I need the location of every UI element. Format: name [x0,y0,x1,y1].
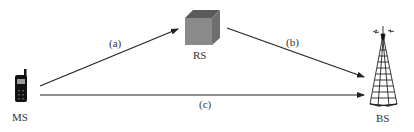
edge-b: (b) [227,28,364,77]
edge-a: (a) [40,29,178,86]
edge-b-label: (b) [286,36,299,49]
node-ms: MS [12,69,28,123]
node-rs-label: RS [193,49,206,61]
relay-cube-icon [185,10,220,45]
edge-c-label: (c) [199,98,212,111]
node-bs: BS [370,26,397,124]
edge-a-label: (a) [109,37,122,50]
node-rs: RS [185,10,220,61]
node-bs-label: BS [376,112,389,124]
relay-diagram: (a) (b) (c) MS RS [0,0,414,132]
mobile-phone-icon [15,69,27,102]
node-ms-label: MS [12,111,28,123]
edge-c: (c) [40,95,364,111]
cell-tower-icon [370,26,397,106]
